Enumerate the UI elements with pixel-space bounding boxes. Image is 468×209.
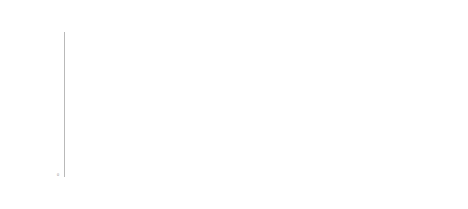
plot-area [64, 32, 454, 177]
origin-label: 0 [57, 173, 59, 177]
bar-groups [65, 32, 454, 177]
grouped-bar-chart: 0 [0, 0, 468, 209]
